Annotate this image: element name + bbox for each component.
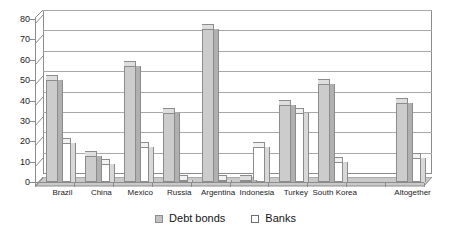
x-axis-tick [191, 183, 192, 187]
y-axis-tick-label: 60 [6, 55, 30, 65]
bar-front-face [240, 180, 252, 182]
bar-side-face [265, 147, 270, 182]
legend-swatch-icon-debt-bonds [155, 215, 163, 223]
chart-legend: Debt bonds Banks [0, 213, 451, 224]
x-axis-tick-label: South Korea [295, 188, 375, 198]
bar-front-face [46, 80, 58, 182]
x-axis-tick [424, 183, 425, 187]
bar-front-face [396, 103, 408, 182]
bar-front-face [202, 29, 214, 182]
bar-indonesia-banks [253, 147, 265, 182]
bars-layer [35, 10, 432, 183]
bar-side-face [408, 103, 413, 182]
bar-front-face [163, 113, 175, 182]
bar-china-debt-bonds [85, 156, 97, 182]
bar-side-face [252, 180, 257, 182]
bar-side-face [110, 164, 115, 182]
legend-item-banks[interactable]: Banks [251, 213, 296, 224]
bar-indonesia-debt-bonds [240, 180, 252, 182]
x-axis-tick [230, 183, 231, 187]
bar-argentina-debt-bonds [202, 29, 214, 182]
y-axis-tick-label: 70 [6, 34, 30, 44]
x-axis-tick [385, 183, 386, 187]
bar-front-face [279, 105, 291, 182]
bar-front-face [85, 156, 97, 182]
x-axis-tick [307, 183, 308, 187]
bar-chart: 01020304050607080 BrazilChinaMexicoRussi… [0, 0, 451, 245]
bar-russia-debt-bonds [163, 113, 175, 182]
bar-side-face [175, 113, 180, 182]
y-axis-tick-label: 20 [6, 136, 30, 146]
bar-side-face [214, 29, 219, 182]
y-axis-tick-label: 30 [6, 116, 30, 126]
bar-front-face [124, 66, 136, 182]
x-axis-tick [35, 183, 36, 187]
bar-altogether-debt-bonds [396, 103, 408, 182]
x-axis-labels: BrazilChinaMexicoRussiaArgentinaIndonesi… [0, 188, 451, 202]
bar-mexico-debt-bonds [124, 66, 136, 182]
bar-side-face [149, 147, 154, 182]
bar-side-face [421, 158, 426, 182]
bar-front-face [318, 84, 330, 182]
bar-side-face [136, 66, 141, 182]
x-axis-tick-label: Altogether [373, 188, 451, 198]
x-axis-tick [346, 183, 347, 187]
legend-item-debt-bonds[interactable]: Debt bonds [155, 213, 225, 224]
bar-side-face [97, 156, 102, 182]
y-axis-tick-label: 40 [6, 96, 30, 106]
bar-south-korea-debt-bonds [318, 84, 330, 182]
x-axis-tick [74, 183, 75, 187]
bar-front-face [253, 147, 265, 182]
bar-side-face [58, 80, 63, 182]
bar-side-face [188, 180, 193, 182]
bar-side-face [227, 180, 232, 182]
y-axis-tick-label: 0 [6, 177, 30, 187]
y-axis-tick-label: 50 [6, 75, 30, 85]
bar-side-face [330, 84, 335, 182]
bar-side-face [343, 162, 348, 182]
bar-brazil-debt-bonds [46, 80, 58, 182]
bar-turkey-debt-bonds [279, 105, 291, 182]
x-axis-tick [268, 183, 269, 187]
bar-side-face [304, 113, 309, 182]
y-axis-tick-label: 80 [6, 14, 30, 24]
x-axis-tick [152, 183, 153, 187]
legend-label-debt-bonds: Debt bonds [169, 213, 225, 224]
y-axis-tick-label: 10 [6, 157, 30, 167]
x-axis-tick [113, 183, 114, 187]
legend-swatch-icon-banks [251, 215, 259, 223]
legend-label-banks: Banks [265, 213, 296, 224]
bar-side-face [71, 143, 76, 182]
bar-side-face [291, 105, 296, 182]
